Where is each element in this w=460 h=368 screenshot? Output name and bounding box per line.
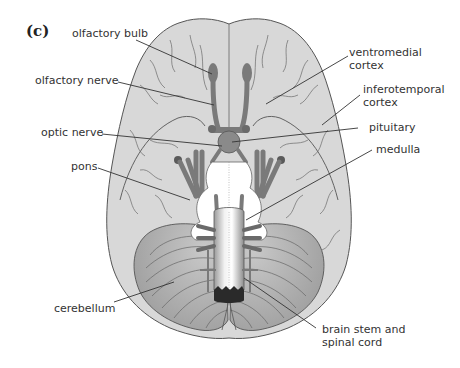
label-olfactory-nerve: olfactory nerve [35,74,119,87]
label-brainstem-l2: spinal cord [322,336,382,349]
label-cerebellum: cerebellum [54,302,115,315]
label-medulla: medulla [376,143,420,156]
panel-label: (c) [26,22,49,40]
label-olfactory-bulb: olfactory bulb [72,27,148,40]
brain-ventral-diagram: (c) [0,0,460,368]
label-ventromedial-cortex-l1: ventromedial [349,46,422,59]
label-inferotemporal-cortex-l1: inferotemporal [363,83,445,96]
label-pituitary: pituitary [369,121,416,134]
label-optic-nerve: optic nerve [41,126,103,139]
label-pons: pons [71,160,98,173]
label-brainstem-l1: brain stem and [322,323,406,336]
label-ventromedial-cortex-l2: cortex [349,59,384,72]
label-inferotemporal-cortex-l2: cortex [363,96,398,109]
